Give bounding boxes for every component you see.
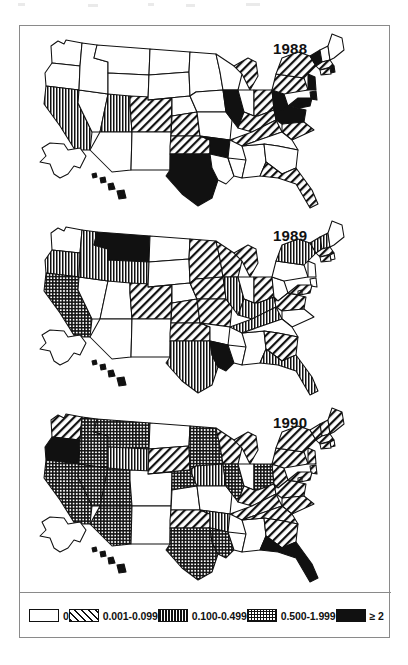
state-ND [149, 423, 190, 449]
state-CO [130, 283, 172, 319]
state-ND [149, 236, 190, 262]
state-CO [130, 470, 172, 506]
state-DC [298, 290, 302, 295]
year-label-1990: 1990 [273, 414, 307, 431]
state-KS [171, 112, 200, 136]
legend-item-1: 0.001-0.099 [69, 609, 158, 622]
state-HI3 [108, 183, 115, 190]
legend-swatch-stipple-icon [247, 609, 277, 622]
state-NJ [308, 448, 316, 464]
state-KS [171, 486, 200, 510]
state-OR [45, 437, 80, 464]
state-OK [170, 510, 210, 528]
state-ME [328, 221, 344, 247]
state-HI2 [100, 551, 106, 557]
state-ME [328, 408, 344, 434]
map-legend: 0 0.001-0.099 0.100-0.499 0.500-1.999 ≥ … [20, 593, 391, 638]
legend-label-1: 0.001-0.099 [103, 610, 158, 622]
legend-swatch-hatch-icon [69, 609, 99, 622]
state-DC [298, 477, 302, 482]
state-HI4 [117, 190, 126, 199]
map-panel-1990: 1990 [20, 402, 391, 588]
us-map-1990 [20, 402, 391, 588]
state-OK [170, 323, 210, 341]
state-TX [166, 341, 218, 393]
state-IA [190, 277, 226, 299]
state-OK [170, 136, 210, 154]
figure-frame: 1988 [19, 25, 390, 638]
legend-swatch-none-icon [29, 609, 59, 622]
state-NJ [308, 74, 316, 90]
legend-item-0: 0 [29, 609, 69, 622]
legend-label-2: 0.100-0.499 [192, 610, 247, 622]
scan-artifact-band [0, 0, 408, 14]
legend-label-4: ≥ 2 [370, 610, 384, 622]
state-HI4 [117, 377, 126, 386]
state-NM [131, 132, 171, 170]
state-IA [190, 464, 226, 486]
map-panel-1989: 1989 [20, 215, 391, 401]
state-SD [148, 259, 190, 287]
state-NJ [308, 261, 316, 277]
year-label-1988: 1988 [273, 40, 307, 57]
state-WA [51, 40, 82, 66]
state-HI4 [117, 564, 126, 573]
state-HI [92, 173, 97, 178]
state-TX [166, 528, 218, 580]
state-KS [171, 299, 200, 323]
map-panel-1988: 1988 [20, 28, 391, 214]
state-AZ [90, 132, 132, 172]
state-ME [328, 34, 344, 60]
legend-item-3: 0.500-1.999 [247, 609, 336, 622]
state-DC [298, 103, 302, 108]
state-HI [92, 547, 97, 552]
state-HI3 [108, 370, 115, 377]
state-OR [45, 63, 80, 90]
state-CO [130, 96, 172, 132]
state-SD [148, 446, 190, 474]
state-ND [149, 49, 190, 75]
us-map-1988 [20, 28, 391, 214]
state-AZ [90, 506, 132, 546]
state-IA [190, 90, 226, 112]
legend-swatch-vline-icon [158, 609, 188, 622]
legend-item-2: 0.100-0.499 [158, 609, 247, 622]
state-NM [131, 319, 171, 357]
state-WA [51, 227, 82, 253]
state-HI2 [100, 364, 106, 370]
state-HI3 [108, 557, 115, 564]
state-AK [40, 143, 86, 178]
year-label-1989: 1989 [273, 227, 307, 244]
state-AK [40, 330, 86, 365]
state-TX [166, 154, 218, 206]
state-SD [148, 72, 190, 100]
state-OR [45, 250, 80, 277]
legend-swatch-solid-icon [336, 609, 366, 622]
state-NM [131, 506, 171, 544]
state-WA [51, 414, 82, 440]
state-HI2 [100, 177, 106, 183]
state-AZ [90, 319, 132, 359]
state-HI [92, 360, 97, 365]
legend-item-4: ≥ 2 [336, 609, 384, 622]
us-map-1989 [20, 215, 391, 401]
legend-label-3: 0.500-1.999 [281, 610, 336, 622]
state-AK [40, 517, 86, 552]
